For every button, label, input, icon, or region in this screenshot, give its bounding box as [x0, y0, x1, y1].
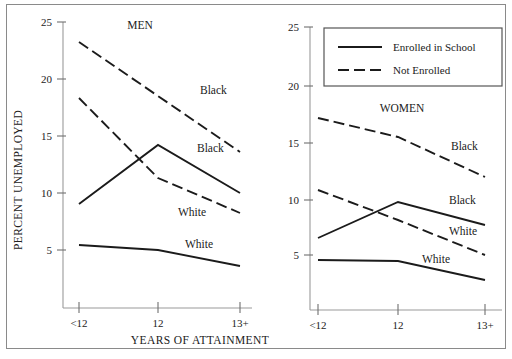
panel-women: 25 20 15 10 5 <12 12 13+ Enrolled in Sch… — [262, 0, 512, 359]
x-ticklabel-12-women: 12 — [393, 319, 404, 331]
series-label-men-black-not-enrolled: Black — [200, 84, 227, 96]
series-label-men-white-not-enrolled: White — [178, 206, 206, 218]
legend-label-not-enrolled: Not Enrolled — [393, 64, 451, 76]
x-ticklabel-13p-women: 13+ — [476, 319, 493, 331]
series-label-women-black-enrolled: Black — [449, 194, 476, 206]
series-label-men-white-enrolled: White — [185, 238, 213, 250]
legend-label-enrolled: Enrolled in School — [393, 41, 476, 53]
y-ticklabel-15-men: 15 — [41, 130, 53, 142]
y-ticklabel-5-women: 5 — [294, 249, 300, 261]
series-men-white-not-enrolled — [79, 98, 240, 213]
series-men-white-enrolled — [79, 245, 240, 266]
y-ticklabel-25-men: 25 — [41, 16, 53, 28]
x-axis-label-text: YEARS OF ATTAINMENT — [131, 334, 269, 346]
y-ticklabel-20-women: 20 — [288, 80, 300, 92]
figure-container: PERCENT UNEMPLOYED 25 20 15 10 5 <12 12 … — [0, 0, 512, 359]
men-chart-svg: PERCENT UNEMPLOYED 25 20 15 10 5 <12 12 … — [0, 0, 262, 359]
y-ticklabel-10-men: 10 — [41, 187, 53, 199]
y-ticklabel-20-men: 20 — [41, 73, 53, 85]
legend-box — [324, 28, 502, 86]
x-ticklabel-12-men: 12 — [153, 317, 164, 329]
series-label-women-black-not-enrolled: Black — [451, 140, 478, 152]
series-label-women-white-enrolled: White — [422, 253, 450, 265]
y-ticklabel-5-men: 5 — [47, 244, 53, 256]
panel-title-women: WOMEN — [380, 102, 425, 114]
series-label-women-white-not-enrolled: White — [449, 225, 477, 237]
y-ticklabel-15-women: 15 — [288, 137, 300, 149]
series-men-black-not-enrolled — [79, 42, 240, 152]
y-ticklabel-25-women: 25 — [288, 21, 300, 33]
x-axis-label: YEARS OF ATTAINMENT — [0, 334, 400, 346]
series-label-men-black-enrolled: Black — [197, 142, 224, 154]
y-ticklabel-10-women: 10 — [288, 194, 300, 206]
women-chart-svg: 25 20 15 10 5 <12 12 13+ Enrolled in Sch… — [262, 0, 512, 359]
panel-title-men: MEN — [127, 19, 153, 31]
x-ticklabel-13p-men: 13+ — [231, 317, 248, 329]
series-women-white-enrolled — [318, 260, 485, 280]
x-ticklabel-lt12-women: <12 — [309, 319, 326, 331]
y-axis-label-men: PERCENT UNEMPLOYED — [12, 110, 24, 250]
x-ticklabel-lt12-men: <12 — [70, 317, 87, 329]
panel-men: PERCENT UNEMPLOYED 25 20 15 10 5 <12 12 … — [0, 0, 262, 359]
